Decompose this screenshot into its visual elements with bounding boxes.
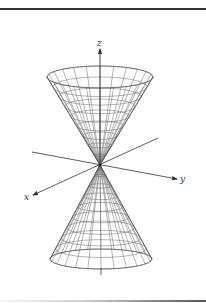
lower-cone-mesh [50,165,152,275]
x-axis-label: x [24,192,29,202]
bottom-rule [0,300,206,302]
y-axis-label: y [179,174,186,184]
double-cone-figure: z x y [0,0,206,303]
upper-cone-mesh [47,49,153,167]
z-axis-label: z [96,38,102,48]
axes [32,138,177,195]
